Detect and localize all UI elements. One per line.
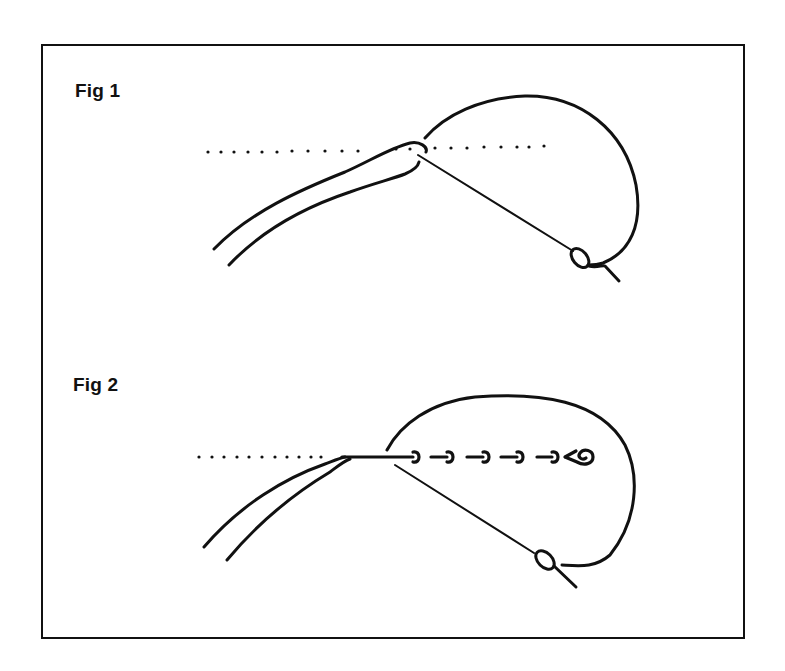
fig2-needle-tip xyxy=(554,566,576,587)
fig2-needle xyxy=(395,465,534,553)
fig1-thread-upper xyxy=(214,143,426,249)
fig2-thread-loop xyxy=(387,396,634,566)
stitch-1 xyxy=(431,452,453,462)
fig2-dotted-guideline xyxy=(197,455,322,458)
fig1-illustration xyxy=(206,96,637,281)
stitch-2 xyxy=(467,452,489,462)
stitch-curl-end xyxy=(565,450,593,464)
stitch-3 xyxy=(501,452,523,462)
fig1-dotted-guideline xyxy=(206,144,545,153)
stitch-4 xyxy=(537,452,558,462)
fig2-thread-lower xyxy=(227,459,350,560)
fig2-thread-upper xyxy=(204,457,345,547)
fig1-thread-loop xyxy=(425,96,638,265)
stitch-diagram xyxy=(0,0,785,671)
fig2-illustration xyxy=(197,396,634,587)
fig1-needle-tip xyxy=(589,266,619,281)
fig1-needle xyxy=(418,155,573,251)
fig2-needle-eye xyxy=(532,547,557,572)
fig2-whipped-stitches xyxy=(431,450,593,464)
